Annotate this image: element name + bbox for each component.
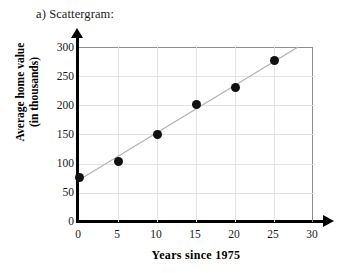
scattergram-figure: a) Scattergram: 300 250 200 150 100 50 0… — [0, 0, 341, 273]
data-point — [270, 56, 279, 65]
y-tick-label-250: 250 — [46, 70, 74, 82]
y-tick-label-300: 300 — [46, 41, 74, 53]
y-tick-label-150: 150 — [46, 128, 74, 140]
y-tick-label-200: 200 — [46, 99, 74, 111]
y-axis-title: Average home value (in thousands) — [13, 17, 41, 167]
x-axis-arrow-icon — [323, 215, 334, 227]
y-tick-label-0: 0 — [46, 215, 74, 227]
y-axis-arrow-icon — [71, 28, 83, 38]
y-tick-label-50: 50 — [46, 186, 74, 198]
plot-area — [79, 47, 313, 222]
x-tick-label-0: 0 — [67, 228, 89, 240]
x-tick-label-10: 10 — [145, 228, 167, 240]
y-axis-title-line1: Average home value — [14, 43, 26, 142]
data-point — [231, 83, 240, 92]
x-tick-label-20: 20 — [223, 228, 245, 240]
data-point — [153, 130, 162, 139]
data-point — [75, 173, 84, 182]
x-tick-label-30: 30 — [301, 228, 323, 240]
data-point — [114, 157, 123, 166]
data-point — [192, 100, 201, 109]
part-label: a) Scattergram: — [36, 7, 114, 22]
x-tick-label-25: 25 — [262, 228, 284, 240]
x-tick-label-5: 5 — [106, 228, 128, 240]
x-axis-title: Years since 1975 — [79, 248, 313, 263]
x-tick-label-15: 15 — [184, 228, 206, 240]
y-axis-title-line2: (in thousands) — [28, 57, 40, 127]
y-tick-label-100: 100 — [46, 157, 74, 169]
trend-line — [79, 47, 313, 222]
